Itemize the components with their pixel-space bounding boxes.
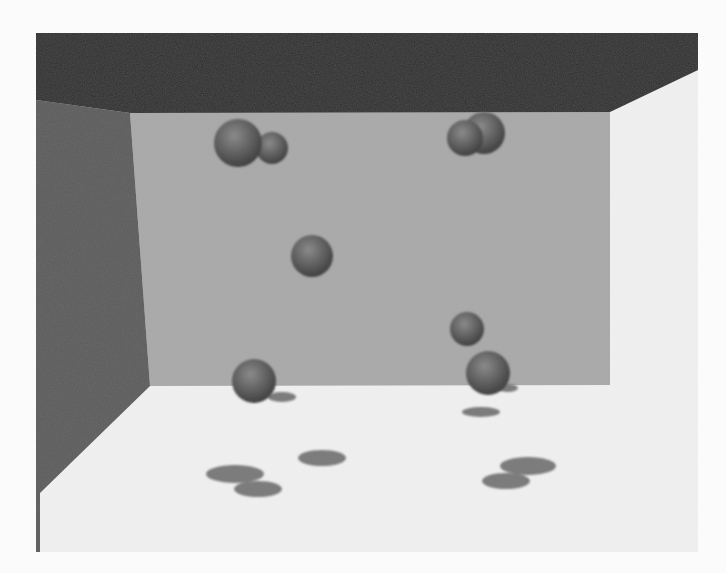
floor-shadow — [298, 450, 346, 466]
floor-shadow — [500, 457, 556, 475]
floor-shadow — [206, 465, 264, 483]
sphere — [466, 351, 510, 395]
sphere — [450, 312, 484, 346]
ceiling-surface — [36, 33, 698, 113]
sphere — [291, 235, 333, 277]
floor-shadow — [234, 481, 282, 497]
back-wall-surface — [130, 112, 610, 386]
sphere — [214, 119, 262, 167]
floor-shadow — [268, 392, 296, 402]
sphere — [232, 359, 276, 403]
floor-shadow — [482, 473, 530, 489]
room-render-scene — [0, 0, 726, 573]
floor-shadow — [462, 407, 500, 417]
sphere — [447, 120, 483, 156]
